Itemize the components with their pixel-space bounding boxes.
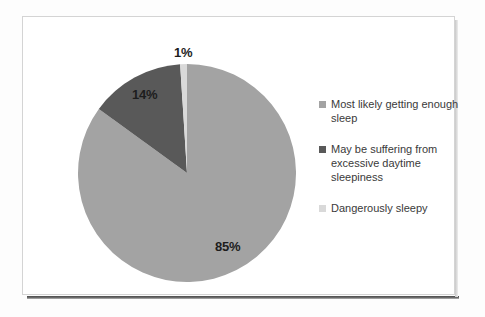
pie-chart xyxy=(78,64,296,282)
pie-label-may-be-suffering: 14% xyxy=(132,87,157,102)
legend-item-most-likely-getting-enough-sleep[interactable]: Most likely getting enough sleep xyxy=(319,97,469,125)
legend-swatch-icon xyxy=(319,101,326,108)
page-background: 1% 14% 85% Most likely getting enough sl… xyxy=(0,0,485,317)
legend-item-label: Dangerously sleepy xyxy=(331,201,428,215)
pie-label-most-likely-getting-enough-sleep: 85% xyxy=(215,239,240,254)
pie-label-dangerously-sleepy: 1% xyxy=(174,45,192,60)
legend-item-may-be-suffering-from-excessive-daytime-sleepiness[interactable]: May be suffering from excessive daytime … xyxy=(319,142,469,184)
legend-swatch-icon xyxy=(319,205,326,212)
card-shadow-bottom xyxy=(27,296,459,299)
chart-card: 1% 14% 85% Most likely getting enough sl… xyxy=(22,16,455,295)
legend-item-dangerously-sleepy[interactable]: Dangerously sleepy xyxy=(319,201,469,215)
legend-item-label: Most likely getting enough sleep xyxy=(331,97,467,125)
legend-item-label: May be suffering from excessive daytime … xyxy=(331,142,467,184)
pie-chart-svg xyxy=(78,64,296,282)
chart-legend: Most likely getting enough sleep May be … xyxy=(319,97,469,215)
legend-swatch-icon xyxy=(319,146,326,153)
